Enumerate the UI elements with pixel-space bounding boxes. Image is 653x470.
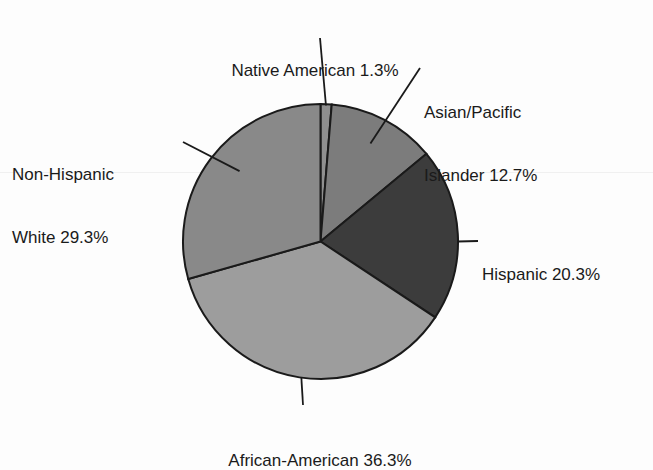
leader-line-african-american	[301, 378, 303, 405]
slice-label-non-hispanic-white-line2: White 29.3%	[12, 227, 202, 248]
slice-label-asian-pacific-islander-line1: Asian/Pacific	[424, 102, 599, 123]
slice-label-asian-pacific-islander: Asian/Pacific Islander 12.7%	[424, 60, 599, 228]
leader-line-hispanic	[458, 241, 478, 242]
slice-label-african-american: African-American 36.3%	[190, 408, 450, 470]
slice-label-native-american: Native American 1.3%	[190, 18, 440, 123]
slice-label-non-hispanic-white: Non-Hispanic White 29.3%	[12, 122, 202, 290]
slice-label-non-hispanic-white-line1: Non-Hispanic	[12, 164, 202, 185]
slice-label-african-american-line1: African-American 36.3%	[190, 450, 450, 470]
slice-label-hispanic-line1: Hispanic 20.3%	[482, 264, 652, 285]
pie-slice-group	[183, 104, 458, 379]
slice-label-asian-pacific-islander-line2: Islander 12.7%	[424, 165, 599, 186]
slice-label-hispanic: Hispanic 20.3%	[482, 222, 652, 327]
slice-label-native-american-line1: Native American 1.3%	[190, 60, 440, 81]
